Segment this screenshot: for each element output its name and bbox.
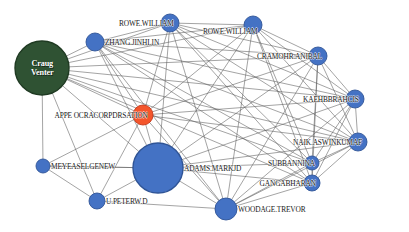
graph-edge	[49, 170, 90, 197]
graph-node-subbannina[interactable]	[305, 156, 319, 170]
graph-node-rowe-william-2[interactable]	[244, 16, 262, 34]
graph-edge	[260, 30, 347, 93]
graph-edge	[146, 125, 151, 144]
graph-edge	[259, 32, 352, 136]
graph-edge	[49, 120, 134, 163]
graph-edge	[160, 32, 169, 143]
graph-edge	[318, 146, 349, 160]
nodes-group	[15, 14, 367, 220]
graph-edge	[66, 79, 133, 110]
graph-node-kaehbbrahcis[interactable]	[346, 90, 364, 108]
graph-edge	[236, 166, 306, 204]
graph-edge	[101, 124, 139, 194]
graph-edge	[104, 25, 162, 40]
graph-node-rowe-william-1[interactable]	[161, 14, 179, 32]
graph-svg-layer	[0, 0, 409, 232]
graph-edge	[356, 108, 358, 133]
graph-edge	[182, 102, 347, 160]
graph-edge	[236, 146, 350, 204]
graph-edge	[234, 105, 348, 202]
graph-edge	[68, 74, 349, 140]
graph-edge	[50, 166, 133, 167]
graph-edge	[66, 46, 87, 56]
graph-edge	[237, 185, 305, 206]
graph-edge	[103, 46, 306, 159]
graph-node-adams-markjd[interactable]	[133, 143, 183, 193]
graph-edge	[42, 95, 43, 159]
graph-node-craig-venter[interactable]	[15, 41, 69, 95]
graph-edge	[183, 143, 349, 165]
graph-node-woodage-trevor[interactable]	[215, 198, 237, 220]
graph-node-gangabharan[interactable]	[304, 175, 320, 191]
graph-edge	[152, 59, 309, 112]
graph-node-cramohr-anibal[interactable]	[309, 47, 327, 65]
graph-edge	[153, 116, 349, 141]
graph-edge	[67, 26, 161, 59]
graph-edge	[151, 31, 246, 109]
graph-edge	[105, 202, 215, 209]
graph-edge	[172, 33, 248, 148]
graph-edge	[104, 180, 136, 197]
graph-node-meyeaselgenew[interactable]	[36, 159, 50, 173]
graph-edge	[179, 23, 244, 25]
network-graph[interactable]: CraugVenterZHANG.JINHLINROWE.WILLIAMROWE…	[0, 0, 409, 232]
graph-edge	[179, 25, 309, 54]
graph-node-apple-oracle-corp[interactable]	[133, 105, 153, 125]
graph-node-u-peterw-d[interactable]	[89, 193, 105, 209]
graph-node-naik-aswinkumaf[interactable]	[349, 133, 367, 151]
graph-edge	[100, 50, 138, 107]
graph-edge	[257, 33, 310, 156]
graph-node-zhang-jinhlin[interactable]	[86, 33, 104, 51]
